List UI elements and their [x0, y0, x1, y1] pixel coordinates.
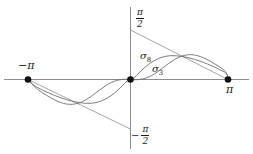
sigma-8-subscript: 8 [147, 56, 151, 64]
neg-pi-half-fraction: π 2 [141, 125, 149, 146]
sigma-3-subscript: 3 [159, 69, 163, 77]
pi-half-numerator: π [136, 8, 144, 17]
marker-pos-pi [225, 76, 232, 83]
neg-pi-half-numerator: π [141, 125, 149, 134]
plot-canvas [0, 0, 253, 154]
marker-origin [127, 76, 134, 83]
y-tick-label-pi-half: π 2 [134, 8, 144, 29]
target-line-left [28, 80, 131, 130]
neg-pi-half-denominator: 2 [141, 137, 149, 146]
y-tick-label-neg-pi-half: − π 2 [131, 125, 149, 146]
x-tick-label-neg-pi: −π [18, 60, 34, 71]
curve-label-sigma-3: σ3 [152, 64, 163, 77]
x-tick-label-pos-pi: π [226, 84, 233, 95]
pi-half-denominator: 2 [136, 20, 144, 29]
curve-label-sigma-8: σ8 [140, 51, 151, 64]
fourier-partial-sums-figure: −π π π 2 − π 2 σ8 σ3 [0, 0, 253, 154]
sigma-8-symbol: σ [140, 50, 147, 61]
pi-half-fraction: π 2 [136, 8, 144, 29]
marker-neg-pi [25, 76, 32, 83]
neg-pi-half-sign: − [131, 130, 139, 141]
sigma-3-symbol: σ [152, 63, 159, 74]
